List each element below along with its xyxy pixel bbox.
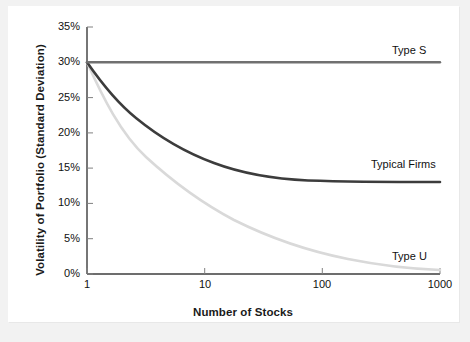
y-tick-label-5: 5% xyxy=(40,232,80,244)
x-tick-label-1000: 1000 xyxy=(418,278,462,290)
x-tick-label-10: 10 xyxy=(183,278,227,290)
y-tick-label-20: 20% xyxy=(40,126,80,138)
y-tick-label-35: 35% xyxy=(40,20,80,32)
y-tick-label-15: 15% xyxy=(40,161,80,173)
chart-card: 35% 30% 25% 20% 15% 10% 5% 0% 1 10 100 1… xyxy=(8,6,459,322)
y-tick-label-10: 10% xyxy=(40,196,80,208)
y-tick-label-25: 25% xyxy=(40,91,80,103)
chart-figure: 35% 30% 25% 20% 15% 10% 5% 0% 1 10 100 1… xyxy=(0,0,470,342)
y-axis-title: Volatility of Portfolio (Standard Deviat… xyxy=(34,30,46,290)
series-label-type-u: Type U xyxy=(392,250,427,262)
x-axis-ticks xyxy=(87,268,440,274)
y-tick-label-30: 30% xyxy=(40,55,80,67)
x-axis-title: Number of Stocks xyxy=(8,306,470,318)
x-tick-label-100: 100 xyxy=(300,278,344,290)
series-label-typical-firms: Typical Firms xyxy=(371,158,436,170)
series-label-type-s: Type S xyxy=(392,44,426,56)
x-tick-label-1: 1 xyxy=(65,278,109,290)
